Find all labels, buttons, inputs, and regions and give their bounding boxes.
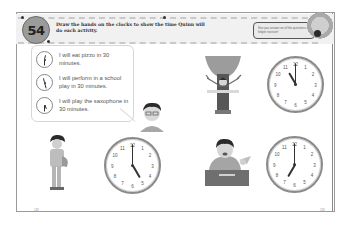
- clock-numeral: 8: [114, 173, 117, 178]
- clock-numeral: 11: [120, 146, 125, 151]
- clock-numeral: 9: [111, 163, 114, 168]
- clock-center: [44, 82, 46, 84]
- clock-center: [131, 164, 134, 167]
- clock-numeral: 9: [273, 162, 276, 167]
- clock-numeral: 11: [282, 145, 287, 150]
- clock-numeral: 2: [312, 72, 315, 77]
- instructions-text: Draw the hands on the clocks to show the…: [56, 22, 206, 34]
- decor-dot: [21, 16, 24, 19]
- saxophone-child-illustration: [42, 134, 74, 192]
- clock-numeral: 10: [113, 153, 118, 158]
- clock-numeral: 3: [314, 82, 317, 87]
- activity-clock-1[interactable]: 121234567891011: [267, 56, 324, 113]
- clock-numeral: 10: [275, 152, 280, 157]
- quinn-portrait-illustration: [137, 98, 167, 132]
- tip-illustration: [306, 12, 334, 42]
- clock-center: [44, 59, 46, 61]
- clock-center: [294, 83, 297, 86]
- clock-numeral: 6: [131, 183, 134, 188]
- clock-numeral: 1: [141, 146, 144, 151]
- minute-hand: [132, 144, 134, 165]
- header-dashed-line-bottom: [18, 42, 318, 44]
- clock-numeral: 7: [121, 180, 124, 185]
- activity-number: 54: [27, 23, 44, 38]
- bubble-item: I will eat pizzo in 30 minutes.: [36, 51, 131, 68]
- mini-clock-icon: [36, 74, 53, 91]
- decor-dot: [163, 16, 166, 19]
- clock-numeral: 5: [303, 179, 306, 184]
- bubble-item: I will play the saxophone in 30 minutes.: [36, 97, 131, 114]
- clock-numeral: 5: [141, 180, 144, 185]
- tree-costume-child-illustration: [203, 54, 243, 116]
- activity-clock-3[interactable]: 121234567891011: [266, 136, 323, 193]
- minute-hand: [295, 63, 297, 84]
- clock-numeral: 6: [294, 102, 297, 107]
- minute-hand: [294, 143, 296, 164]
- right-page-number: 119: [320, 208, 325, 212]
- clock-numeral: 6: [293, 182, 296, 187]
- tip-text: See you answer on of the questions on he…: [258, 26, 310, 34]
- clock-numeral: 7: [284, 99, 287, 104]
- clock-numeral: 8: [276, 172, 279, 177]
- clock-center: [44, 105, 46, 107]
- clock-numeral: 7: [283, 179, 286, 184]
- clock-numeral: 8: [277, 92, 280, 97]
- activity-number-badge: 54: [22, 16, 50, 44]
- clock-numeral: 4: [312, 92, 315, 97]
- clock-numeral: 5: [304, 99, 307, 104]
- clock-numeral: 3: [313, 162, 316, 167]
- clock-numeral: 10: [276, 72, 281, 77]
- clock-numeral: 4: [311, 172, 314, 177]
- clock-numeral: 1: [303, 145, 306, 150]
- bubble-item: I will perform in a school play in 30 mi…: [36, 74, 131, 91]
- clock-numeral: 11: [283, 65, 288, 70]
- clock-center: [293, 163, 296, 166]
- clock-numeral: 1: [304, 65, 307, 70]
- activity-clock-2[interactable]: 121234567891011: [104, 137, 161, 194]
- clock-numeral: 3: [151, 163, 154, 168]
- pizza-eating-child-illustration: [205, 136, 253, 188]
- clock-numeral: 9: [274, 82, 277, 87]
- bubble-item-label: I will eat pizzo in 30 minutes.: [59, 51, 131, 67]
- clock-numeral: 2: [311, 152, 314, 157]
- speech-bubble: I will eat pizzo in 30 minutes. I will p…: [31, 45, 134, 122]
- decor-dot: [47, 40, 50, 43]
- mini-clock-icon: [36, 51, 53, 68]
- clock-numeral: 4: [149, 173, 152, 178]
- header-dashed-line-top: [18, 17, 318, 19]
- bubble-item-label: I will perform in a school play in 30 mi…: [59, 74, 131, 90]
- mini-clock-icon: [36, 97, 53, 114]
- left-page-number: 118: [34, 208, 39, 212]
- bubble-item-label: I will play the saxophone in 30 minutes.: [59, 97, 131, 113]
- clock-numeral: 2: [149, 153, 152, 158]
